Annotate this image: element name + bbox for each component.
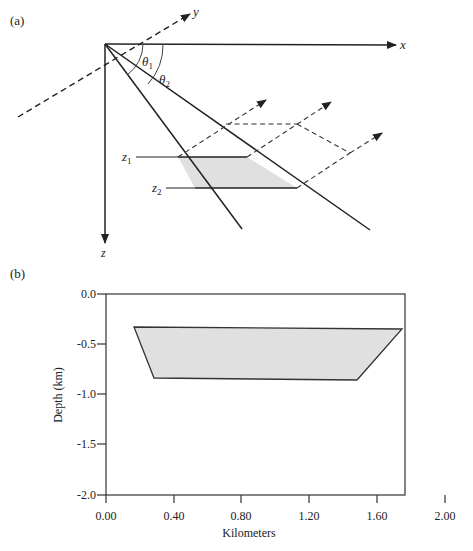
svg-text:-1.0: -1.0 (77, 387, 96, 401)
theta1-label: θ1 (142, 54, 153, 71)
y-axis-label: y (191, 4, 199, 19)
z-axis-label: z (100, 246, 106, 260)
theta2-label: θ2 (159, 72, 170, 89)
z2-label: z2 (151, 180, 162, 197)
z1-label: z1 (121, 149, 132, 166)
shaded-layer (178, 157, 297, 188)
x-axis (105, 44, 396, 45)
y-tick-labels: 0.0 -0.5 -1.0 -1.5 -2.0 (77, 287, 96, 502)
svg-text:0.0: 0.0 (81, 287, 96, 301)
theta1-arc (127, 44, 143, 75)
y-ticks (97, 294, 106, 495)
x-axis-label: x (399, 37, 406, 52)
x-axis-title: Kilometers (222, 526, 276, 540)
y-axis (18, 14, 190, 117)
panel-b: (b) 0.0 -0.5 -1.0 -1.5 -2.0 (10, 266, 456, 540)
svg-text:0.80: 0.80 (231, 509, 252, 523)
svg-text:-2.0: -2.0 (77, 488, 96, 502)
panel-a-label: (a) (10, 13, 24, 28)
panel-a: (a) y x z θ1 θ2 z1 z2 (10, 4, 406, 260)
x-tick-labels: 0.00 0.40 0.80 1.20 1.60 2.00 (96, 509, 456, 523)
svg-text:-1.5: -1.5 (77, 437, 96, 451)
body-polygon (134, 327, 402, 380)
y-axis-title: Depth (km) (51, 367, 65, 423)
plot-frame (106, 294, 405, 495)
panel-b-label: (b) (10, 266, 25, 281)
svg-text:0.00: 0.00 (96, 509, 117, 523)
svg-text:2.00: 2.00 (435, 509, 456, 523)
svg-text:-0.5: -0.5 (77, 337, 96, 351)
ray-theta2 (105, 44, 370, 230)
svg-text:1.20: 1.20 (299, 509, 320, 523)
svg-text:1.60: 1.60 (367, 509, 388, 523)
svg-text:0.40: 0.40 (164, 509, 185, 523)
ray-theta1 (105, 44, 242, 229)
x-ticks (106, 495, 445, 503)
figure: (a) y x z θ1 θ2 z1 z2 (0, 0, 473, 551)
